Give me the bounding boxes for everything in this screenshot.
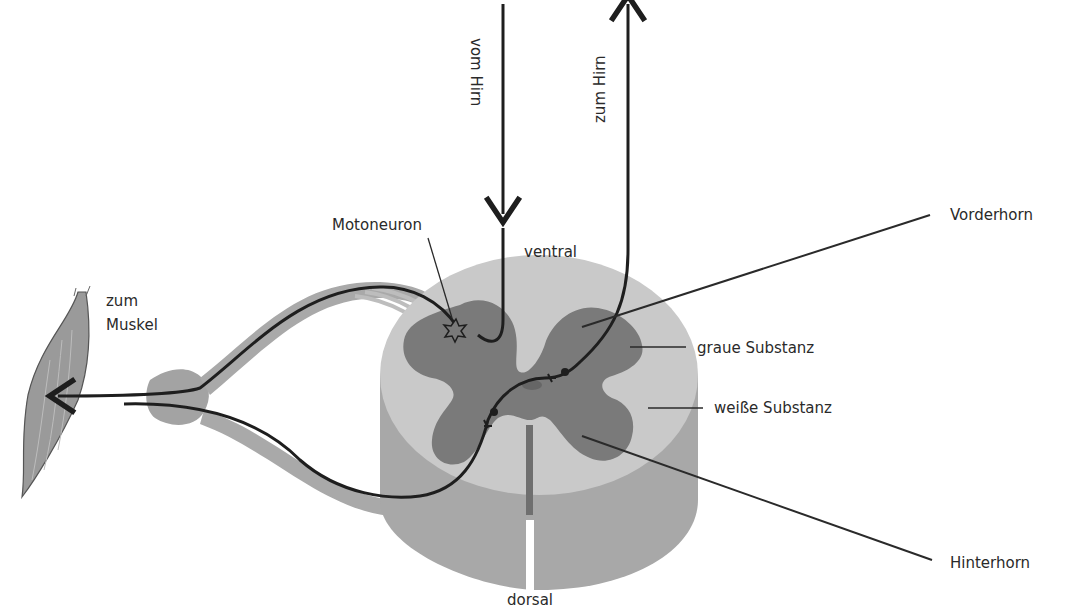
label-ventral: ventral (524, 243, 577, 261)
label-dorsal: dorsal (507, 591, 553, 609)
synapse-dot (561, 368, 569, 376)
label-anterior-horn: Vorderhorn (950, 206, 1033, 224)
spinal-cord-reflex-diagram: vom Hirn zum Hirn Motoneuron ventral zum… (0, 0, 1072, 614)
label-to-muscle-line2: Muskel (106, 316, 158, 334)
label-grey-matter: graue Substanz (697, 339, 814, 357)
label-posterior-horn: Hinterhorn (950, 554, 1030, 572)
label-to-brain: zum Hirn (591, 55, 609, 123)
label-motoneuron: Motoneuron (332, 216, 422, 234)
muscle-illustration (22, 286, 90, 497)
label-white-matter: weiße Substanz (714, 399, 832, 417)
label-to-muscle-line1: zum (106, 292, 138, 310)
synapse-dot (490, 408, 498, 416)
label-from-brain: vom Hirn (467, 38, 485, 106)
